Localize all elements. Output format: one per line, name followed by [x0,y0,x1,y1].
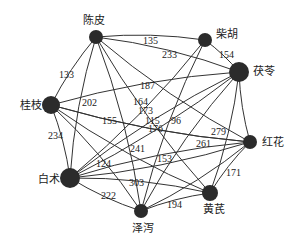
edge-weight-label: 241 [130,143,145,154]
node-label-fuling: 茯苓 [253,64,275,78]
edge-weight-label: 171 [226,167,241,178]
node-label-guizhi: 桂枝 [20,98,42,112]
edge-weight-label: 164 [133,96,148,107]
herb-network-diagram: 1351332331731549616418711517623415520226… [0,0,299,247]
edge-weight-label: 303 [129,177,144,188]
node-honghua [243,135,257,149]
edge-honghua-fuling [239,72,250,142]
node-chaihu [198,33,212,47]
edge-fuling-zexie [141,72,239,211]
node-guizhi [42,96,60,114]
edge-weight-label: 261 [196,138,211,149]
edge-weight-label: 202 [82,97,97,108]
edge-weight-label: 194 [167,199,182,210]
edge-weight-label: 133 [59,69,74,80]
node-label-huangqi: 黄芪 [203,202,225,216]
edge-weight-label: 234 [48,130,63,141]
edge-weight-label: 222 [101,190,116,201]
node-label-honghua: 红花 [262,136,284,149]
node-fuling [229,62,249,82]
node-label-chaihu: 柴胡 [216,27,238,41]
edge-weight-label: 176 [148,123,163,134]
node-label-zexie: 泽泻 [132,222,154,235]
node-baizhu [60,168,80,188]
edge-weight-label: 155 [102,115,117,126]
edge-weight-label: 187 [140,80,155,91]
node-huangqi [202,185,218,201]
node-label-baizhu: 白术 [38,172,60,186]
node-zexie [134,204,148,218]
node-label-chenpi: 陈皮 [83,13,105,27]
edge-weight-label: 124 [96,158,111,169]
edge-weight-label: 233 [162,49,177,60]
edge-weight-label: 154 [219,49,234,60]
edge-weight-label: 279 [211,126,226,137]
node-chenpi [89,30,103,44]
edge-weight-label: 96 [171,115,181,126]
edge-weight-label: 153 [157,153,172,164]
edge-weight-label: 135 [143,35,158,46]
